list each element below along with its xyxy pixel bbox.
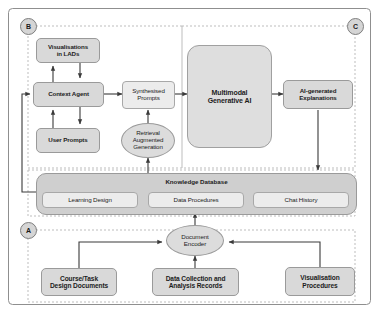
region-tag-a: A	[20, 222, 37, 239]
node-visualisations-in-lads[interactable]: Visualisations in LADs	[36, 38, 100, 63]
node-label-synthesised-prompts: Synthesised Prompts	[132, 88, 165, 102]
node-context-agent[interactable]: Context Agent	[33, 82, 104, 107]
node-label-course-task-design-documents: Course/Task Design Documents	[50, 275, 108, 290]
label-line-1: Retrieval	[136, 129, 160, 136]
node-data-collection-analysis-records[interactable]: Data Collection and Analysis Records	[152, 268, 239, 296]
label-line-1: Course/Task	[60, 275, 98, 282]
label-line-2: Augmented	[133, 136, 164, 143]
label-line-1: Document	[181, 233, 208, 240]
label-line-2: Analysis Records	[169, 282, 223, 289]
label-line-2: Design Documents	[50, 282, 108, 289]
label-line-2: Prompts	[137, 94, 159, 101]
node-label-data-collection-analysis-records: Data Collection and Analysis Records	[166, 275, 226, 290]
node-course-task-design-documents[interactable]: Course/Task Design Documents	[41, 268, 117, 296]
node-label-visualisations-in-lads: Visualisations in LADs	[48, 44, 88, 58]
node-label-multimodal-generative-ai: Multimodal Generative AI	[208, 89, 252, 105]
node-chat-history[interactable]: Chat History	[253, 192, 349, 208]
label-line-2: Generative AI	[208, 97, 252, 104]
node-learning-design[interactable]: Learning Design	[42, 192, 138, 208]
node-retrieval-augmented-generation[interactable]: Retrieval Augmented Generation	[121, 123, 175, 158]
label-line-1: Multimodal	[212, 89, 248, 96]
node-document-encoder[interactable]: Document Encoder	[166, 225, 224, 256]
label-line-1: Visualisations	[48, 43, 88, 50]
label-line-2: in LADs	[57, 50, 80, 57]
label-line-1: Visualisation	[300, 274, 339, 281]
edge-course-docs-to-document-encoder	[79, 242, 162, 268]
node-label-document-encoder: Document Encoder	[181, 234, 208, 248]
node-multimodal-generative-ai[interactable]: Multimodal Generative AI	[187, 45, 272, 148]
node-label-chat-history: Chat History	[285, 197, 318, 204]
node-label-data-procedures: Data Procedures	[174, 197, 219, 204]
node-label-learning-design: Learning Design	[68, 197, 112, 204]
label-line-1: Data Collection and	[166, 275, 226, 282]
node-ai-generated-explanations[interactable]: AI-generated Explanations	[283, 80, 353, 109]
region-tag-c: C	[347, 18, 364, 35]
label-line-3: Generation	[133, 143, 163, 150]
label-line-2: Encoder	[184, 240, 206, 247]
label-line-2: Procedures	[302, 282, 337, 289]
node-synthesised-prompts[interactable]: Synthesised Prompts	[122, 81, 175, 109]
node-label-ai-generated-explanations: AI-generated Explanations	[299, 88, 336, 102]
label-line-1: AI-generated	[300, 87, 337, 94]
edge-knowledge-database-to-context-agent	[22, 94, 36, 192]
knowledge-database-title: Knowledge Database	[37, 178, 356, 185]
node-label-user-prompts: User Prompts	[48, 137, 87, 144]
edge-visualisation-procedures-to-document-encoder	[229, 242, 320, 267]
node-visualisation-procedures[interactable]: Visualisation Procedures	[285, 267, 355, 296]
region-tag-b: B	[20, 18, 37, 35]
node-label-retrieval-augmented-generation: Retrieval Augmented Generation	[133, 130, 164, 151]
label-line-2: Explanations	[299, 94, 336, 101]
label-line-1: Synthesised	[132, 87, 165, 94]
diagram-canvas: B C A Visualisations in LADs Context Age…	[0, 0, 379, 313]
node-data-procedures[interactable]: Data Procedures	[148, 192, 244, 208]
node-user-prompts[interactable]: User Prompts	[36, 128, 100, 153]
node-label-context-agent: Context Agent	[48, 91, 89, 98]
node-label-visualisation-procedures: Visualisation Procedures	[300, 274, 339, 289]
